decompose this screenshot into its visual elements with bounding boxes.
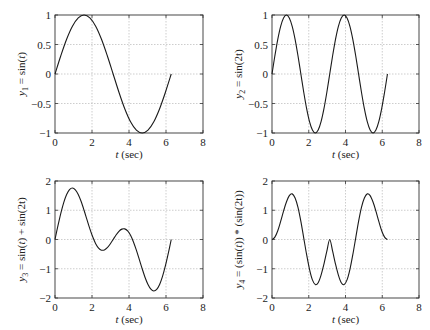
data-curve-y4 [272,194,387,285]
x-tick-label: 8 [416,136,422,148]
y-tick-label: −2 [256,292,268,304]
x-tick-label: 0 [52,136,58,148]
y-tick-label: −1 [39,127,51,139]
data-curve-y1 [55,15,171,133]
y-axis-label: y2 = sin(2t) [232,49,247,100]
y-tick-label: −0.5 [248,98,268,110]
x-tick-label: 8 [200,301,206,313]
x-tick-label: 4 [126,301,132,313]
y-tick-label: 0.5 [254,39,268,51]
x-tick-label: 6 [163,301,169,313]
x-tick-label: 2 [306,301,312,313]
y-tick-label: 1 [46,204,52,216]
y-tick-label: 2 [263,175,269,187]
y-tick-label: 0 [46,234,52,246]
x-tick-label: 2 [89,136,95,148]
y-axis-label: y1 = sin(t) [15,52,30,97]
x-axis-label: t (sec) [115,148,143,161]
x-tick-label: 0 [269,136,275,148]
y-tick-label: −1 [256,127,268,139]
data-curve-y2 [272,15,387,133]
x-tick-label: 0 [52,301,58,313]
y-tick-label: −0.5 [31,98,51,110]
x-tick-label: 6 [380,136,386,148]
y-tick-label: −1 [39,263,51,275]
subplot-y2: 02468−1−0.500.51t (sec)y2 = sin(2t) [232,9,422,161]
subplot-y4: 02468−2−1012t (sec)y4 = (sin(t)) * (sin(… [232,175,422,326]
subplot-y1: 02468−1−0.500.51t (sec)y1 = sin(t) [15,9,206,161]
y-tick-label: 0 [263,234,269,246]
x-tick-label: 8 [200,136,206,148]
y-tick-label: 1 [263,9,269,21]
y-tick-label: 0 [263,68,269,80]
y-axis-label: y4 = (sin(t)) * (sin(2t)) [232,190,247,290]
subplot-y3: 02468−2−1012t (sec)y3 = sin(t) + sin(2t) [15,175,206,326]
x-tick-label: 0 [269,301,275,313]
x-tick-label: 6 [380,301,386,313]
x-tick-label: 2 [89,301,95,313]
x-tick-label: 4 [343,301,349,313]
y-tick-label: 2 [46,175,52,187]
y-tick-label: 0 [46,68,52,80]
x-axis-label: t (sec) [332,148,360,161]
y-tick-label: −1 [256,263,268,275]
data-curve-y3 [55,188,171,291]
x-tick-label: 2 [306,136,312,148]
x-axis-label: t (sec) [115,313,143,326]
y-tick-label: 1 [46,9,52,21]
y-tick-label: 1 [263,204,269,216]
x-tick-label: 6 [163,136,169,148]
y-tick-label: 0.5 [37,39,51,51]
x-axis-label: t (sec) [332,313,360,326]
x-tick-label: 4 [343,136,349,148]
y-axis-label: y3 = sin(t) + sin(2t) [15,197,30,283]
x-tick-label: 4 [126,136,132,148]
figure: 02468−1−0.500.51t (sec)y1 = sin(t)02468−… [0,0,430,330]
x-tick-label: 8 [416,301,422,313]
y-tick-label: −2 [39,292,51,304]
